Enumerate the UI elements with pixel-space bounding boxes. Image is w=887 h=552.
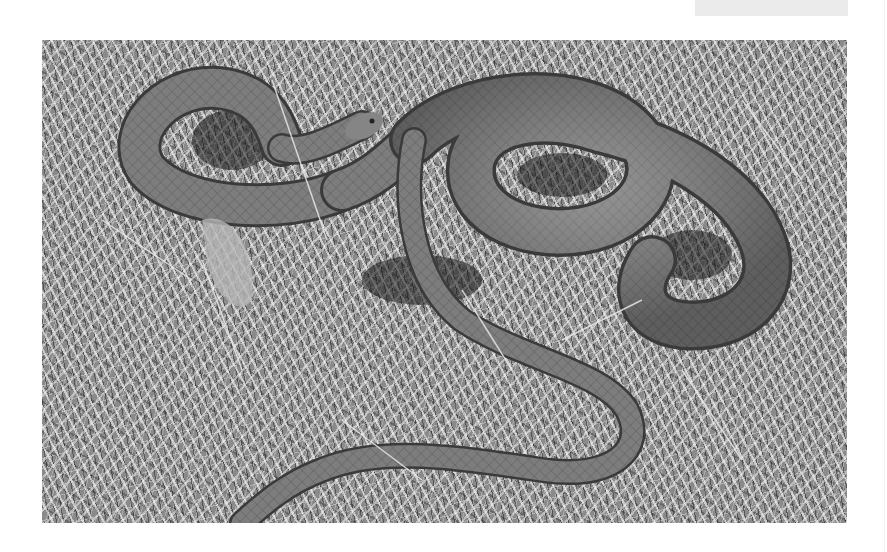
- snake-eye: [370, 119, 375, 124]
- snake-illustration: [42, 40, 847, 523]
- snake-photograph: [42, 40, 847, 523]
- dry-leaf: [202, 218, 253, 306]
- page-edge-line: [884, 0, 885, 552]
- top-gray-tab: [695, 0, 848, 16]
